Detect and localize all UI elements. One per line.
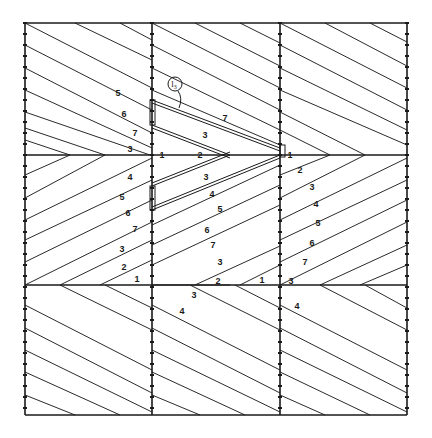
tick-mark [150,55,154,57]
tick-mark [405,99,409,101]
tick-mark [150,286,154,288]
tick-mark [150,220,154,222]
tick-mark [405,44,409,46]
tick-mark [150,242,154,244]
hatch-line [152,165,280,225]
tick-mark [405,242,409,244]
strip-label: 6 [204,225,209,235]
top-band [25,23,407,155]
strip-label: 1 [259,275,264,285]
tick-mark [278,286,282,288]
tick-mark [278,55,282,57]
tick-mark [278,110,282,112]
tick-mark [278,220,282,222]
tick-mark [405,132,409,134]
hatch-line [280,155,365,198]
tick-mark [278,396,282,398]
hatch-line [25,155,105,198]
tick-mark [278,132,282,134]
hatch-line [25,128,105,155]
tick-mark [278,77,282,79]
tick-mark [405,363,409,365]
tick-mark [23,319,27,321]
tick-mark [150,330,154,332]
tick-mark [150,198,154,200]
bottom-band [25,285,407,415]
strip-label: 2 [215,276,220,286]
tick-mark [23,77,27,79]
tick-mark [150,22,154,24]
tick-mark [23,308,27,310]
strip-label: 4 [127,172,132,182]
tick-mark [150,88,154,90]
strip-label: 3 [309,182,314,192]
tick-mark [150,319,154,321]
tick-mark [23,121,27,123]
hatch-line [195,23,280,66]
tick-mark [150,341,154,343]
tick-mark [150,121,154,123]
hatch-line [60,285,152,330]
tick-mark [405,110,409,112]
tick-mark [23,55,27,57]
tick-mark [278,275,282,277]
tick-mark [405,165,409,167]
hatch-line [25,372,120,415]
strip-label: 1 [159,150,164,160]
tick-mark [23,297,27,299]
tick-mark [23,44,27,46]
tick-mark [405,385,409,387]
tick-mark [405,22,409,24]
hatch-line [235,285,280,308]
hatch-line [105,285,152,308]
strip-label: 6 [121,109,126,119]
strip-label: 5 [217,204,222,214]
tick-mark [405,187,409,189]
hatch-line [360,265,407,285]
tick-mark [150,396,154,398]
tick-mark [23,110,27,112]
chevron-edge-inner [152,103,280,151]
hatch-line [195,246,280,285]
tick-mark [278,352,282,354]
tick-mark [405,33,409,35]
callout-leader-line [178,91,181,108]
hatch-line [152,395,200,415]
grid-frame [25,23,407,415]
tick-mark [278,264,282,266]
tick-mark [23,33,27,35]
tick-mark [23,220,27,222]
tick-mark [150,143,154,145]
strip-label: 3 [119,244,124,254]
tick-mark [23,253,27,255]
tick-mark [405,154,409,156]
tick-mark [405,308,409,310]
tick-mark [150,407,154,409]
tick-mark [278,231,282,233]
strip-label: 4 [209,189,214,199]
tick-mark [150,253,154,255]
tick-mark [150,352,154,354]
tick-mark [405,121,409,123]
strip-label: 5 [119,192,124,202]
strip-label: 2 [121,262,126,272]
tick-mark [150,33,154,35]
tick-mark [405,330,409,332]
tick-mark [23,88,27,90]
tick-mark [405,341,409,343]
tick-mark [23,165,27,167]
strip-label: 5 [315,218,320,228]
tick-mark [405,231,409,233]
hatch-line [280,90,407,145]
tick-mark [405,55,409,57]
tick-mark [405,88,409,90]
hatch-line [370,23,407,42]
tick-mark [23,99,27,101]
tick-mark [278,22,282,24]
tick-mark [23,231,27,233]
callout-label: l3 [171,79,177,90]
tick-mark [150,374,154,376]
tick-mark [278,121,282,123]
tick-mark [23,242,27,244]
strip-label: 3 [202,130,207,140]
